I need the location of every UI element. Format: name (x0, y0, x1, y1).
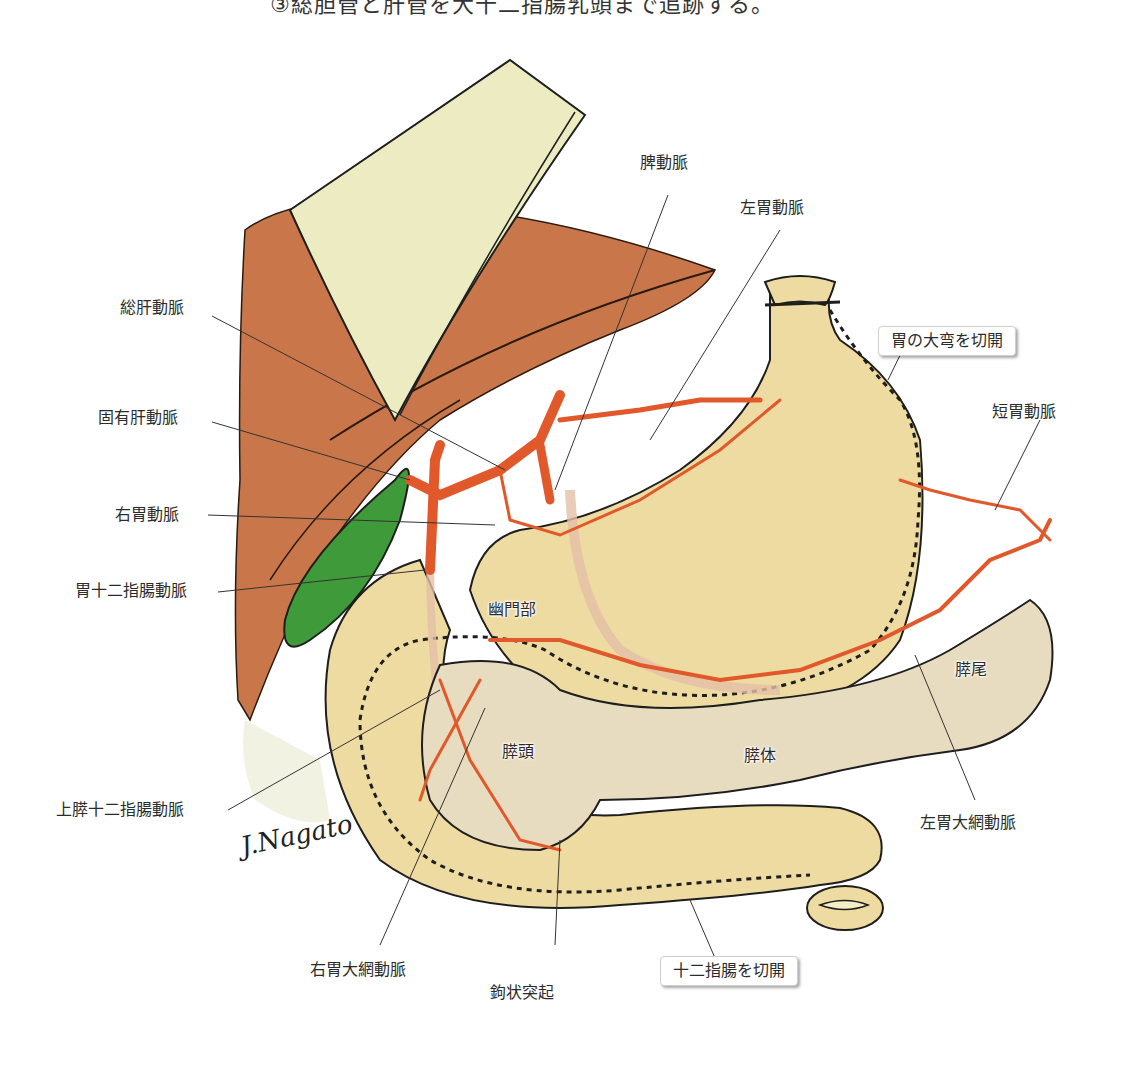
label-right-gastric-artery: 右胃動脈 (115, 507, 179, 523)
label-left-gastroepiploic-artery: 左胃大網動脈 (920, 815, 1016, 831)
label-short-gastric-artery: 短胃動脈 (992, 404, 1056, 420)
label-superior-pancreaticoduodenal-artery: 上膵十二指腸動脈 (56, 802, 184, 818)
label-splenic-artery: 脾動脈 (640, 155, 688, 171)
label-right-gastroepiploic-artery: 右胃大網動脈 (310, 962, 406, 978)
anatomy-illustration (0, 0, 1127, 1068)
label-pancreas-body: 膵体 (744, 748, 776, 764)
label-left-gastric-artery: 左胃動脈 (740, 200, 804, 216)
label-gastroduodenal-artery: 胃十二指腸動脈 (75, 583, 187, 599)
label-common-hepatic-artery: 総肝動脈 (120, 300, 184, 316)
label-pancreas-head: 膵頭 (502, 744, 534, 760)
callout-duodenum-incision: 十二指腸を切開 (660, 956, 798, 986)
label-pylorus: 幽門部 (488, 602, 536, 618)
callout-greater-curvature-incision: 胃の大弯を切開 (878, 326, 1016, 356)
label-proper-hepatic-artery: 固有肝動脈 (98, 410, 178, 426)
label-uncinate-process: 鉤状突起 (490, 985, 554, 1001)
label-pancreas-tail: 膵尾 (955, 662, 987, 678)
